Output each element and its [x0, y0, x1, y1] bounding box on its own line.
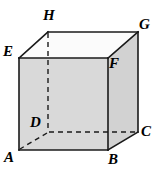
vertex-label-C: C — [141, 124, 151, 139]
vertex-label-D: D — [30, 115, 41, 130]
vertex-label-F: F — [109, 56, 119, 71]
vertex-label-E: E — [3, 44, 13, 59]
vertex-label-A: A — [4, 150, 14, 165]
vertex-label-H: H — [43, 8, 55, 23]
cube-figure: H G E F D C A B — [0, 0, 158, 170]
vertex-label-G: G — [139, 17, 150, 32]
cube-drawing — [0, 0, 158, 170]
cube-front-face — [19, 58, 108, 150]
vertex-label-B: B — [108, 152, 118, 167]
